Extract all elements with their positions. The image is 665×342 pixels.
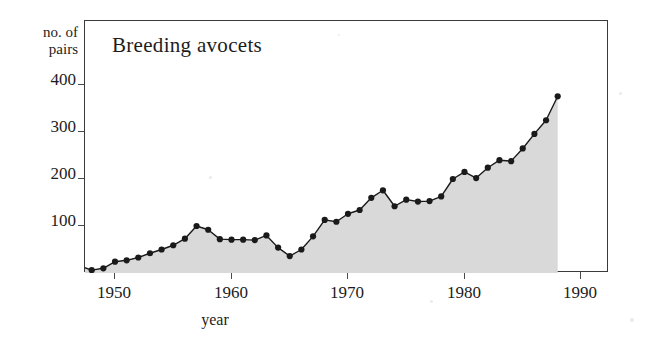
data-point: [461, 169, 467, 175]
y-tick-label-300: 300: [24, 117, 76, 137]
data-point: [298, 246, 304, 252]
y-axis-label: no. of pairs: [20, 24, 78, 58]
data-point: [368, 195, 374, 201]
data-point: [240, 237, 246, 243]
data-point: [193, 223, 199, 229]
scan-speckle: [619, 92, 622, 95]
data-point: [520, 145, 526, 151]
data-point: [531, 131, 537, 137]
x-tick-mark: [231, 272, 232, 279]
data-point: [263, 232, 269, 238]
scan-speckle: [209, 176, 212, 179]
x-tick-label-1950: 1950: [74, 283, 154, 303]
data-point: [357, 207, 363, 213]
scan-speckle: [338, 34, 340, 36]
data-point: [100, 265, 106, 271]
scan-speckle: [252, 44, 255, 47]
x-tick-label-1980: 1980: [424, 283, 504, 303]
data-point: [380, 187, 386, 193]
y-tick-label-200: 200: [24, 164, 76, 184]
data-point: [403, 197, 409, 203]
chart-page: no. of pairs 400 300 200 100 1950 1960 1…: [0, 0, 665, 342]
data-point: [287, 253, 293, 259]
x-tick-label-1960: 1960: [191, 283, 271, 303]
data-point: [508, 158, 514, 164]
x-tick-label-1970: 1970: [307, 283, 387, 303]
x-axis-title: year: [0, 311, 430, 329]
data-point: [112, 259, 118, 265]
x-tick-mark: [347, 272, 348, 279]
y-axis-label-line2: pairs: [20, 41, 78, 58]
data-point: [415, 198, 421, 204]
y-axis-label-line1: no. of: [20, 24, 78, 41]
data-point: [252, 237, 258, 243]
y-tick-label-400: 400: [24, 70, 76, 90]
data-point: [555, 93, 561, 99]
series-plot: [85, 21, 609, 273]
data-point: [89, 267, 95, 273]
data-point: [392, 203, 398, 209]
data-point: [135, 254, 141, 260]
chart-title: Breeding avocets: [112, 33, 262, 58]
data-point: [485, 165, 491, 171]
scan-speckle: [630, 318, 634, 322]
data-point: [450, 176, 456, 182]
data-point: [438, 193, 444, 199]
x-tick-mark: [114, 272, 115, 279]
data-point: [182, 236, 188, 242]
scan-speckle: [430, 300, 433, 303]
data-point: [124, 257, 130, 263]
area-fill: [85, 96, 558, 273]
data-point: [333, 219, 339, 225]
data-point: [275, 245, 281, 251]
y-tick-label-100: 100: [24, 211, 76, 231]
data-point: [159, 246, 165, 252]
data-point: [496, 157, 502, 163]
data-point: [473, 175, 479, 181]
x-tick-label-1990: 1990: [540, 283, 620, 303]
data-point: [147, 250, 153, 256]
data-point: [322, 217, 328, 223]
data-point: [217, 236, 223, 242]
data-point: [345, 211, 351, 217]
data-point: [543, 117, 549, 123]
x-tick-mark: [580, 272, 581, 279]
data-point: [228, 237, 234, 243]
data-point: [310, 233, 316, 239]
data-point: [205, 227, 211, 233]
data-point: [426, 198, 432, 204]
data-point: [170, 242, 176, 248]
x-tick-mark: [464, 272, 465, 279]
